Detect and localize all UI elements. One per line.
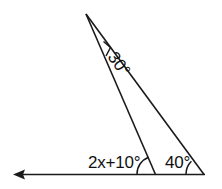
geometry-canvas: 30° 2x+10° 40° <box>0 0 222 189</box>
exterior-angle-label: 2x+10° <box>88 153 140 172</box>
right-base-angle-label: 40° <box>165 153 190 172</box>
apex-angle-tick-icon <box>104 42 111 57</box>
geometry-diagram: 30° 2x+10° 40° <box>0 0 222 189</box>
